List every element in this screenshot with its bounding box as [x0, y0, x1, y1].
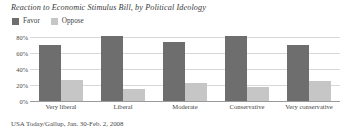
- source-note: USA Today/Gallup, Jan. 30-Feb. 2, 2008: [11, 120, 124, 127]
- bar-group: [92, 37, 154, 101]
- bar-oppose: [247, 87, 269, 101]
- bar-group: [154, 37, 216, 101]
- bar-group: [30, 37, 92, 101]
- bar-oppose: [309, 81, 331, 101]
- bar-favor: [287, 45, 309, 101]
- bar-favor: [39, 45, 61, 101]
- y-tick-label: 40%: [16, 66, 28, 73]
- x-axis-label: Conservative: [216, 103, 278, 110]
- chart-legend: Favor Oppose: [12, 18, 84, 25]
- legend-item-oppose: Oppose: [51, 18, 84, 25]
- x-axis-label: Very liberal: [30, 103, 92, 110]
- y-tick-label: 20%: [16, 82, 28, 89]
- legend-label-oppose: Oppose: [62, 18, 84, 25]
- bar-group: [216, 37, 278, 101]
- y-tick-label: 0%: [19, 98, 28, 105]
- bar-favor: [163, 42, 185, 101]
- bar-favor: [101, 36, 123, 101]
- y-tick-label: 60%: [16, 50, 28, 57]
- bar-oppose: [61, 80, 83, 101]
- y-tick-label: 80%: [16, 34, 28, 41]
- legend-item-favor: Favor: [12, 18, 40, 25]
- x-axis-labels: Very liberalLiberalModerateConservativeV…: [30, 103, 340, 110]
- chart-title: Reaction to Economic Stimulus Bill, by P…: [11, 3, 206, 12]
- legend-swatch-oppose-icon: [51, 18, 58, 25]
- bar-favor: [225, 36, 247, 101]
- x-axis-label: Liberal: [92, 103, 154, 110]
- x-axis-label: Very conservative: [278, 103, 340, 110]
- chart-figure: Reaction to Economic Stimulus Bill, by P…: [0, 0, 342, 134]
- legend-swatch-favor-icon: [12, 18, 19, 25]
- bar-groups: [30, 37, 340, 101]
- bar-oppose: [123, 89, 145, 101]
- x-axis-label: Moderate: [154, 103, 216, 110]
- plot-area: [30, 37, 340, 102]
- bar-oppose: [185, 83, 207, 101]
- plot-wrapper: 0%20%40%60%80%: [0, 37, 342, 101]
- bar-group: [278, 37, 340, 101]
- legend-label-favor: Favor: [23, 18, 40, 25]
- y-axis: 0%20%40%60%80%: [0, 37, 30, 101]
